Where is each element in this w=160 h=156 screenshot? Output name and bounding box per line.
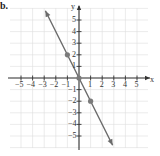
y-tick-label: 3 [72,39,76,47]
y-axis-label: y [71,3,75,11]
y-tick-label: −2 [68,97,77,105]
x-tick-label: −5 [15,81,24,89]
y-tick-label: −4 [68,120,77,128]
y-tick-label: 1 [72,62,76,70]
y-tick-label: −5 [68,132,77,140]
x-axis-label: x [150,76,154,84]
y-tick-label: 5 [72,16,76,24]
x-tick-label: −3 [38,81,47,89]
y-tick-label: −3 [68,109,77,117]
x-tick-label: 5 [135,81,139,89]
x-tick-label: 1 [88,81,92,89]
x-tick-label: 3 [111,81,115,89]
y-tick-label: −1 [68,86,77,94]
x-tick-label: −2 [50,81,59,89]
x-tick-label: 2 [100,81,104,89]
coordinate-plane [0,0,160,156]
y-tick-label: 2 [72,51,76,59]
y-tick-label: 4 [72,28,76,36]
x-tick-label: −4 [27,81,36,89]
x-tick-label: 4 [123,81,127,89]
